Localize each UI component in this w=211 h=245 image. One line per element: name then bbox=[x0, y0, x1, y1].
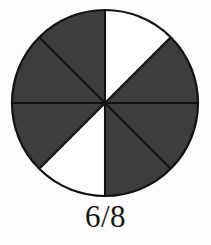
pie-chart-diagram bbox=[0, 0, 211, 211]
fraction-label: 6/8 bbox=[0, 198, 211, 236]
fraction-figure: 6/8 bbox=[0, 0, 211, 245]
